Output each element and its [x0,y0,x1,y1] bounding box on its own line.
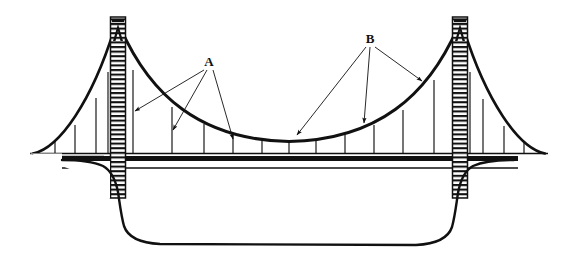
right-tower-top-plate [454,19,466,22]
figure-background [0,0,578,259]
label-b-text: B [366,31,375,46]
deck-main-girder-band [62,156,518,161]
label-a-text: A [204,54,214,69]
left-tower-top-plate [112,19,124,22]
right-tower [453,17,468,198]
left-tower [111,17,126,198]
left-tower-shaft [111,17,126,198]
suspension-bridge-figure: A B [0,0,578,259]
bridge-diagram-canvas: A B [0,0,578,259]
right-tower-shaft [453,17,468,198]
